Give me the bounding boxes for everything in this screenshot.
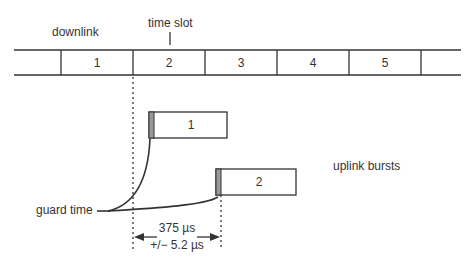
delay-value: 375 µs — [159, 221, 195, 235]
slot-4-label: 4 — [310, 56, 317, 70]
slot-3-label: 3 — [238, 56, 245, 70]
guard-segment — [149, 112, 154, 138]
uplink-bursts-label: uplink bursts — [333, 159, 400, 173]
guard-segment — [216, 169, 221, 195]
guard-time-leaders — [97, 139, 218, 211]
tdma-timing-diagram: 1 2 3 4 5 downlink time slot 1 2 uplink … — [0, 0, 473, 271]
guard-time-label: guard time — [36, 203, 93, 217]
slot-1-label: 1 — [94, 56, 101, 70]
slot-5-label: 5 — [382, 56, 389, 70]
downlink-label: downlink — [52, 25, 100, 39]
time-slot-label: time slot — [148, 16, 193, 30]
burst-1-label: 1 — [188, 118, 195, 132]
slot-2-label: 2 — [166, 56, 173, 70]
burst-2-label: 2 — [256, 175, 263, 189]
delay-tolerance: +/− 5.2 µs — [150, 238, 204, 252]
